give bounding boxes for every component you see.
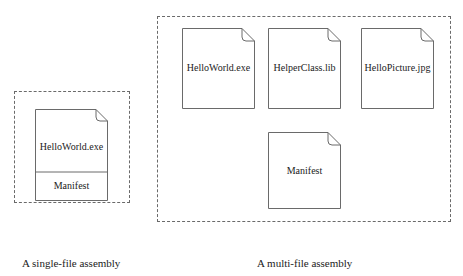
single-file-document: HelloWorld.exe Manifest [35,109,108,201]
manifest-label: Manifest [268,165,341,176]
multi-file-document-helperclass: HelperClass.lib [268,28,341,109]
file-label: HelloWorld.exe [35,141,108,152]
manifest-label: Manifest [35,180,108,191]
file-label: HelloWorld.exe [182,62,255,73]
multi-file-document-hellopicture: HelloPicture.jpg [361,28,434,109]
multi-file-document-manifest: Manifest [268,132,341,209]
file-label: HelloPicture.jpg [361,62,434,73]
file-label: HelperClass.lib [268,62,341,73]
multi-file-caption: A multi-file assembly [257,257,352,269]
multi-file-document-helloworld: HelloWorld.exe [182,28,255,109]
single-file-caption: A single-file assembly [22,257,120,269]
